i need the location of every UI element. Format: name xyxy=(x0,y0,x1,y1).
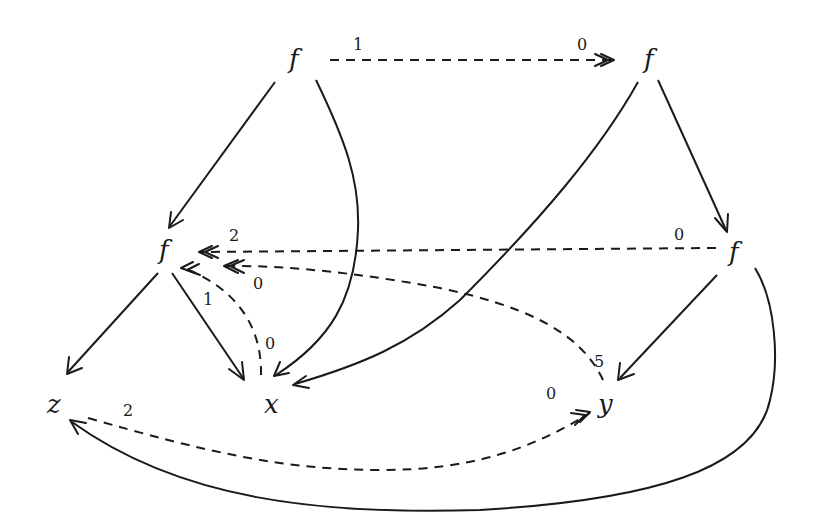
edge-label-x-fml-start: 0 xyxy=(265,334,275,353)
edge-label-mid-end: 2 xyxy=(229,226,239,245)
edge-fmr-to-z xyxy=(70,268,775,511)
edge-fmr-to-y xyxy=(618,275,717,380)
edge-fml-to-z xyxy=(67,273,158,374)
edge-label-z-y-end: 0 xyxy=(546,384,556,403)
edge-ftl-to-fml xyxy=(169,82,275,228)
node-f-mid-left: f xyxy=(157,235,173,265)
edge-label-mid-start: 0 xyxy=(674,225,684,244)
node-y: y xyxy=(597,389,613,419)
edge-label-y-fml-end: 0 xyxy=(253,274,263,293)
edge-ftl-to-x xyxy=(274,80,358,376)
edge-label-fml-x: 1 xyxy=(203,290,213,309)
edge-x-to-fml xyxy=(181,262,261,375)
node-f-top-right: f xyxy=(642,44,658,74)
edge-label-y-fml-start: 5 xyxy=(594,352,604,371)
node-x: x xyxy=(264,389,279,419)
node-f-mid-right: f xyxy=(727,237,743,267)
diagram-canvas: 1 0 0 2 5 0 0 1 2 0 f f f f z x y xyxy=(0,0,816,530)
edge-ftr-to-fmr xyxy=(658,80,728,232)
edge-ftr-to-x xyxy=(293,82,638,388)
edge-z-to-y xyxy=(88,410,590,470)
edge-label-top-end: 0 xyxy=(577,35,587,54)
node-f-top-left: f xyxy=(287,44,303,74)
edge-label-top-start: 1 xyxy=(353,35,363,54)
edge-ftl-to-ftr xyxy=(330,54,614,66)
edge-fmr-to-fml xyxy=(199,246,716,258)
node-z: z xyxy=(46,389,61,419)
edge-label-z-y-start: 2 xyxy=(123,401,133,420)
